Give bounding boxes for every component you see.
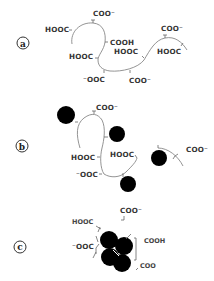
label-ooc-minus: ⁻OOC [76, 170, 98, 179]
bound-particle [120, 176, 136, 192]
label-coo-minus: COO⁻ [93, 9, 115, 18]
label-cooh: COOH [144, 237, 165, 245]
polymer-chain-b [77, 114, 137, 176]
panel-c: c HOOC COO⁻ ⁻OOC COOH COO [14, 206, 165, 272]
label-coo-minus: COO⁻ [161, 24, 183, 33]
panel-c-marker: c [14, 241, 26, 253]
diagram-canvas: a COO⁻ HOOC COOH HOOC HOOC ⁻OOC COO⁻ COO… [0, 0, 214, 281]
panel-a: a COO⁻ HOOC COOH HOOC HOOC ⁻OOC COO⁻ COO… [17, 9, 187, 85]
label-coo-minus: COO⁻ [129, 76, 151, 85]
label-coo-minus: COO⁻ [186, 145, 208, 154]
panel-a-letter: a [20, 39, 26, 49]
bound-particle [151, 150, 167, 166]
label-cooh: COOH [110, 38, 134, 47]
label-coo-minus: COO⁻ [96, 103, 118, 112]
panel-b: b COO⁻ HOOC HOOC ⁻OOC COO⁻ [16, 103, 208, 192]
bound-particle [57, 106, 75, 124]
label-hooc: HOOC [72, 218, 93, 226]
bound-particle [109, 126, 125, 142]
panel-c-letter: c [17, 242, 23, 252]
label-coo-minus: COO⁻ [120, 206, 142, 215]
label-ooc-minus: ⁻OOC [72, 242, 94, 251]
label-hooc: HOOC [110, 150, 134, 159]
panel-b-marker: b [16, 140, 28, 152]
panel-b-letter: b [19, 142, 25, 152]
panel-a-marker: a [17, 37, 29, 49]
label-hooc: HOOC [45, 25, 69, 34]
label-coo: COO [140, 262, 156, 270]
label-hooc: HOOC [71, 153, 95, 162]
label-hooc: HOOC [69, 52, 93, 61]
label-ooc-minus: ⁻OOC [83, 75, 105, 84]
label-hooc: HOOC [114, 47, 138, 56]
label-hooc: HOOC [157, 47, 181, 56]
